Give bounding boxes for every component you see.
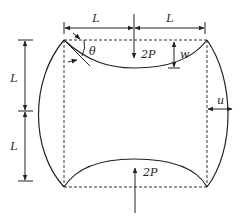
right-edge-curve: [207, 40, 228, 187]
deformed-plate-diagram: L L L L θ w u 2P 2P: [0, 0, 245, 222]
deflection-label: w: [180, 48, 190, 61]
top-left-span-label: L: [91, 12, 99, 25]
bottom-force-arrow: 2P: [135, 166, 158, 213]
left-upper-span-label: L: [9, 72, 17, 85]
left-lower-span-label: L: [9, 140, 17, 153]
left-dimensions: L L: [9, 40, 33, 181]
left-edge-curve: [39, 40, 65, 187]
tangent-line: [64, 40, 90, 66]
bottom-force-label: 2P: [142, 166, 158, 179]
deformed-outline: [39, 40, 229, 187]
deflection-w-marker: w: [168, 42, 190, 68]
top-force-label: 2P: [140, 48, 156, 61]
top-force-arrow: 2P: [134, 40, 156, 61]
angle-label: θ: [89, 45, 96, 58]
top-right-span-label: L: [165, 12, 173, 25]
top-dimensions: L L: [64, 12, 205, 40]
displacement-label: u: [217, 94, 224, 107]
